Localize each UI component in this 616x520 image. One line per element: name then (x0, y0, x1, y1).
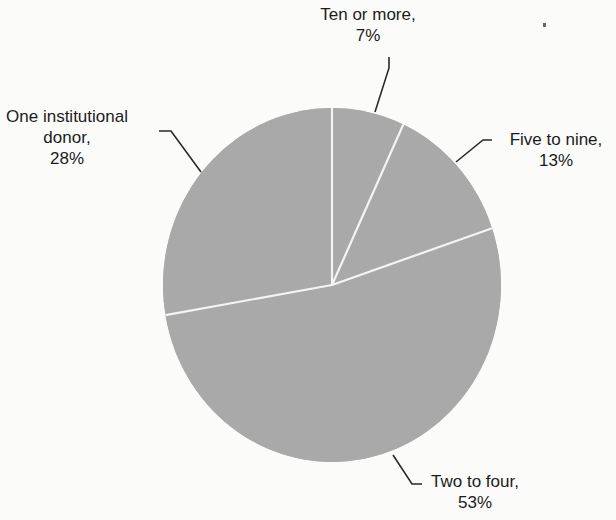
label-two-to-four-value: 53% (425, 492, 525, 513)
scan-artifact-dot (543, 23, 546, 27)
leader-one-donor (159, 131, 201, 172)
pie-slices (163, 108, 501, 462)
pie-slice-one-institutional-donor (163, 108, 332, 315)
leader-two-to-four (393, 455, 422, 484)
pie-chart (0, 0, 616, 520)
label-ten-or-more-name: Ten or more, (318, 4, 418, 25)
label-one-donor-name-2: donor, (2, 127, 132, 148)
label-one-donor: One institutional donor, 28% (2, 106, 132, 169)
label-ten-or-more: Ten or more, 7% (318, 4, 418, 46)
label-five-to-nine-value: 13% (497, 150, 615, 171)
label-two-to-four: Two to four, 53% (425, 471, 525, 513)
label-five-to-nine-name: Five to nine, (497, 129, 615, 150)
leader-five-to-nine (456, 140, 492, 162)
label-five-to-nine: Five to nine, 13% (497, 129, 615, 171)
leader-ten-or-more (375, 57, 389, 112)
label-one-donor-name-1: One institutional (2, 106, 132, 127)
label-one-donor-value: 28% (2, 148, 132, 169)
label-ten-or-more-value: 7% (318, 25, 418, 46)
label-two-to-four-name: Two to four, (425, 471, 525, 492)
